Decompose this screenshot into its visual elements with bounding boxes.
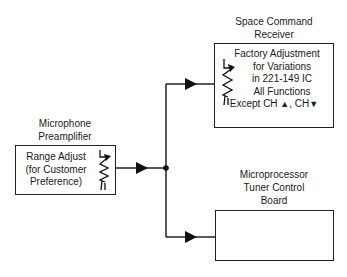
tuner-title-line3: Board <box>214 194 334 207</box>
mic-preamp-block: Range Adjust (for Customer Preference) <box>15 145 116 195</box>
tuner-board-block <box>215 210 334 261</box>
arrow-down-icon: ▼ <box>309 99 318 109</box>
mic-line-3: Preference) <box>19 176 93 189</box>
space-receiver-block: Factory Adjustment for Variations in 221… <box>214 43 334 128</box>
mic-title-line1: Microphone <box>10 117 120 130</box>
space-receiver-title: Space Command Receiver <box>214 15 334 41</box>
space-line-2: for Variations <box>215 61 333 74</box>
mic-line-2: (for Customer <box>19 164 93 177</box>
mic-title-line2: Preamplifier <box>10 130 120 143</box>
space-block-text: Factory Adjustment for Variations in 221… <box>215 48 333 111</box>
arrow-up-icon: ▲ <box>280 99 289 109</box>
space-line-1: Factory Adjustment <box>215 48 333 61</box>
except-ch-label: Except CH <box>230 98 278 109</box>
space-title-line2: Receiver <box>214 28 334 41</box>
space-line-5: Except CH ▲, CH▼ <box>215 98 333 111</box>
arrow-right-icon <box>185 231 197 243</box>
arrow-right-icon <box>185 78 197 90</box>
mic-block-text: Range Adjust (for Customer Preference) <box>19 151 93 189</box>
junction-dot-icon <box>163 165 169 171</box>
mic-line-1: Range Adjust <box>19 151 93 164</box>
tuner-board-title: Microprocessor Tuner Control Board <box>214 168 334 207</box>
space-title-line1: Space Command <box>214 15 334 28</box>
tuner-title-line2: Tuner Control <box>214 181 334 194</box>
space-line-3: in 221-149 IC <box>215 73 333 86</box>
space-line-4: All Functions <box>215 86 333 99</box>
tuner-title-line1: Microprocessor <box>214 168 334 181</box>
mic-preamp-title: Microphone Preamplifier <box>10 117 120 143</box>
variable-resistor-icon <box>96 149 114 191</box>
ch-sep-label: , CH <box>289 98 309 109</box>
arrow-right-icon <box>136 162 148 174</box>
